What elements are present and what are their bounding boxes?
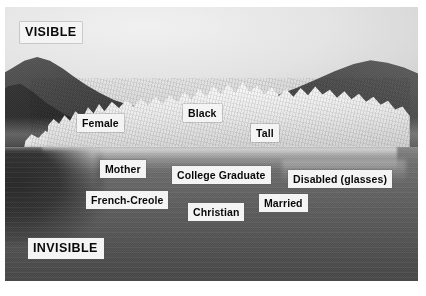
attribute-label-black: Black	[183, 104, 222, 122]
attribute-label-college-graduate: College Graduate	[172, 166, 271, 184]
section-label-visible: VISIBLE	[20, 22, 82, 43]
attribute-label-mother: Mother	[100, 160, 146, 178]
attribute-label-christian: Christian	[188, 203, 244, 221]
attribute-label-married: Married	[259, 194, 308, 212]
iceberg-identity-figure: VISIBLE INVISIBLE Female Black Tall Moth…	[0, 0, 426, 296]
iceberg-photograph: VISIBLE INVISIBLE Female Black Tall Moth…	[5, 7, 418, 281]
attribute-label-female: Female	[77, 114, 124, 132]
attribute-label-french-creole: French-Creole	[86, 191, 168, 209]
attribute-label-disabled-glasses: Disabled (glasses)	[288, 170, 392, 188]
attribute-label-tall: Tall	[251, 124, 279, 142]
section-label-invisible: INVISIBLE	[28, 238, 104, 259]
